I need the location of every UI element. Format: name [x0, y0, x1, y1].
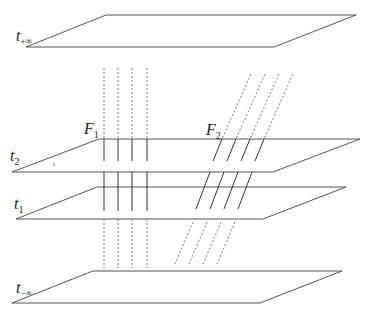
label-F2: F2	[205, 121, 221, 141]
label-t-plus-inf: t+∞	[16, 27, 32, 46]
foliation-diagram: t+∞ t2 t1 t−∞ F1 F2	[0, 0, 368, 314]
plane-t-minus-inf	[12, 271, 342, 303]
plane-t2	[12, 139, 360, 172]
label-t2: t2	[10, 147, 19, 167]
label-t-minus-inf: t−∞	[16, 279, 32, 298]
label-t1: t1	[14, 195, 23, 215]
foliation-F2	[175, 74, 293, 264]
plane-t-plus-inf	[26, 15, 356, 47]
foliation-F1	[104, 68, 147, 268]
label-F1: F1	[83, 120, 99, 140]
plane-t1	[16, 187, 346, 219]
